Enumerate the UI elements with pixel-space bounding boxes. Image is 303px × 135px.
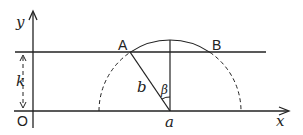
segment-b-label: b (137, 78, 147, 96)
k-label: k (16, 72, 25, 90)
geometry-diagram: y x O k A B b β a (0, 0, 303, 135)
angle-beta-arc (162, 97, 170, 99)
point-a-label: A (118, 37, 128, 53)
segment-b (130, 52, 170, 111)
y-axis-label: y (15, 13, 25, 31)
angle-beta-label: β (160, 83, 168, 97)
arc-dashed-right (210, 52, 241, 111)
origin-label: O (17, 113, 28, 129)
center-a-label: a (165, 113, 174, 131)
diagram-svg: y x O k A B b β a (0, 0, 303, 135)
x-axis-label: x (276, 112, 285, 130)
point-b-label: B (212, 37, 221, 53)
arc-dashed-left (99, 52, 130, 111)
